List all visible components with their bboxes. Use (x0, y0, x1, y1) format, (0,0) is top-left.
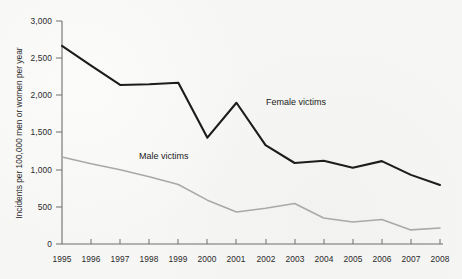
x-tick-label: 2002 (256, 254, 275, 264)
x-tick-label: 2007 (401, 254, 420, 264)
line-chart: Incidents per 100,000 men or women per y… (0, 0, 462, 279)
y-tick-label: 0 (47, 239, 52, 249)
y-tick-label: 2,500 (31, 53, 53, 63)
x-tick-label: 1995 (52, 254, 71, 264)
y-tick-label: 3,000 (31, 16, 53, 26)
series-annotation-male: Male victims (139, 151, 189, 161)
x-tick-label: 2006 (372, 254, 391, 264)
x-tick-label: 1999 (168, 254, 187, 264)
x-ticks (91, 239, 440, 244)
chart-container: Incidents per 100,000 men or women per y… (0, 0, 462, 279)
series-annotation-female: Female victims (266, 97, 327, 107)
x-tick-label: 2008 (430, 254, 449, 264)
y-tick-labels: 3,000 2,500 2,000 1,500 1,000 500 0 (31, 16, 53, 249)
y-tick-label: 1,500 (31, 127, 53, 137)
y-axis-title: Incidents per 100,000 men or women per y… (14, 47, 24, 219)
y-axis: 3,000 2,500 2,000 1,500 1,000 500 0 (31, 16, 62, 249)
series-line-male-victims (62, 157, 440, 230)
x-tick-label: 1996 (81, 254, 100, 264)
x-tick-label: 2003 (285, 254, 304, 264)
y-tick-label: 1,000 (31, 165, 53, 175)
x-tick-label: 1998 (139, 254, 158, 264)
x-tick-label: 2005 (343, 254, 362, 264)
x-tick-label: 1997 (110, 254, 129, 264)
series-line-female-victims (62, 46, 440, 185)
x-tick-label: 2000 (197, 254, 216, 264)
x-tick-label: 2001 (226, 254, 245, 264)
x-tick-labels: 1995 1996 1997 1998 1999 2000 2001 2002 … (52, 254, 449, 264)
x-axis: 1995 1996 1997 1998 1999 2000 2001 2002 … (52, 239, 449, 264)
y-axis-title-group: Incidents per 100,000 men or women per y… (14, 47, 24, 219)
y-ticks (56, 21, 62, 244)
y-tick-label: 2,000 (31, 90, 53, 100)
x-tick-label: 2004 (314, 254, 333, 264)
y-tick-label: 500 (38, 202, 53, 212)
